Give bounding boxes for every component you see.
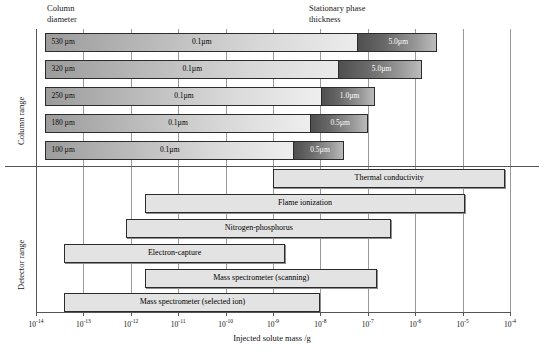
detector-label: Nitrogen-phosphorus xyxy=(127,223,390,232)
detector-label: Thermal conductivity xyxy=(274,173,504,182)
x-tick xyxy=(273,312,274,316)
column-diameter-label: 530 µm xyxy=(51,37,74,46)
detector-label: Mass spectrometer (scanning) xyxy=(146,273,376,282)
x-tick-label: 10-4 xyxy=(504,318,516,329)
phase-thickness-label: 0.1µm xyxy=(160,145,180,154)
x-tick-label: 10-7 xyxy=(362,318,374,329)
x-tick-label: 10-11 xyxy=(171,318,186,329)
column-diameter-label: 320 µm xyxy=(51,64,74,73)
phase-thickness-label: 0.5µm xyxy=(310,145,330,154)
phase-segment-thick: 0.5µm xyxy=(310,115,368,132)
phase-segment-thick: 5.0µm xyxy=(357,34,437,51)
x-tick-label: 10-13 xyxy=(76,318,91,329)
detector-bar: Flame ionization xyxy=(145,194,465,213)
column-bar: 180 µm0.1µm0.5µm xyxy=(45,114,367,133)
detector-bar: Nitrogen-phosphorus xyxy=(126,219,391,238)
phase-segment-thick: 1.0µm xyxy=(321,88,375,105)
axis-label-column-range: Column range xyxy=(16,97,26,145)
phase-thickness-label: 0.1µm xyxy=(174,91,194,100)
detector-bar: Electron-capture xyxy=(64,244,284,263)
x-tick xyxy=(463,312,464,316)
x-tick-label: 10-5 xyxy=(457,318,469,329)
gc-column-detector-range-chart: Column diameter Stationary phase thickne… xyxy=(0,0,544,363)
x-tick-label: 10-6 xyxy=(409,318,421,329)
x-tick xyxy=(131,312,132,316)
phase-thickness-label: 0.5µm xyxy=(330,118,350,127)
x-tick xyxy=(415,312,416,316)
x-tick-label: 10-10 xyxy=(218,318,233,329)
column-diameter-label: 250 µm xyxy=(51,91,74,100)
x-tick xyxy=(226,312,227,316)
column-bar: 250 µm0.1µm1.0µm xyxy=(45,87,374,106)
x-tick-label: 10-8 xyxy=(314,318,326,329)
phase-segment-thick: 0.5µm xyxy=(293,142,344,159)
axis-left-spine xyxy=(36,29,37,313)
x-tick xyxy=(178,312,179,316)
detector-bar: Thermal conductivity xyxy=(273,169,505,188)
header-stationary-phase-thickness: Stationary phase thickness xyxy=(309,3,365,24)
detector-label: Flame ionization xyxy=(146,198,464,207)
axis-label-detector-range: Detector range xyxy=(16,240,26,290)
detector-bar: Mass spectrometer (selected ion) xyxy=(64,293,320,312)
phase-thickness-label: 0.1µm xyxy=(192,37,212,46)
x-axis-title: Injected solute mass /g xyxy=(0,333,544,343)
phase-thickness-label: 5.0µm xyxy=(372,64,392,73)
column-bar: 100 µm0.1µm0.5µm xyxy=(45,141,344,160)
detector-label: Mass spectrometer (selected ion) xyxy=(65,297,319,306)
column-diameter-label: 100 µm xyxy=(51,145,74,154)
x-tick xyxy=(368,312,369,316)
x-tick xyxy=(83,312,84,316)
x-tick xyxy=(320,312,321,316)
column-diameter-label: 180 µm xyxy=(51,118,74,127)
detector-bar: Mass spectrometer (scanning) xyxy=(145,269,377,288)
x-tick xyxy=(510,312,511,316)
phase-thickness-label: 1.0µm xyxy=(340,91,360,100)
group-divider-line xyxy=(5,166,539,167)
phase-thickness-label: 0.1µm xyxy=(168,118,188,127)
x-tick xyxy=(36,312,37,316)
header-column-diameter: Column diameter xyxy=(47,3,77,24)
x-tick-label: 10-12 xyxy=(123,318,138,329)
column-bar: 320 µm0.1µm5.0µm xyxy=(45,60,422,79)
phase-thickness-label: 0.1µm xyxy=(182,64,202,73)
phase-segment-thick: 5.0µm xyxy=(338,61,422,78)
x-tick-label: 10-9 xyxy=(267,318,279,329)
phase-thickness-label: 5.0µm xyxy=(388,37,408,46)
detector-label: Electron-capture xyxy=(65,248,283,257)
gridline xyxy=(510,29,511,312)
column-bar: 530 µm0.1µm5.0µm xyxy=(45,33,436,52)
x-tick-label: 10-14 xyxy=(29,318,44,329)
